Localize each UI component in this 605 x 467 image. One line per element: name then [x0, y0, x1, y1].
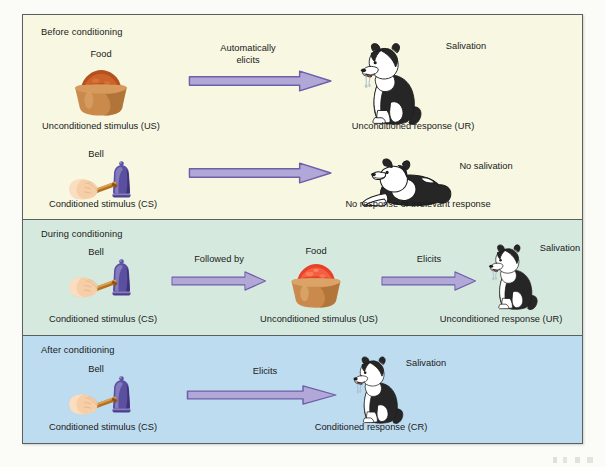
- arrow-label-line-1: Automatically: [193, 43, 303, 55]
- caption-unconditioned-response-during: Unconditioned response (UR): [421, 314, 581, 324]
- hand-ringing-bell-icon: [49, 257, 153, 305]
- panel-before-conditioning: Before conditioning Food Unconditioned s…: [23, 15, 582, 220]
- caption-conditioned-stimulus-after: Conditioned stimulus (CS): [33, 422, 173, 432]
- arrow-food-to-salivation-during: [381, 270, 477, 292]
- label-no-salivation: No salivation: [441, 161, 531, 171]
- caption-conditioned-stimulus-during: Conditioned stimulus (CS): [33, 314, 173, 324]
- page-background: Before conditioning Food Unconditioned s…: [0, 0, 605, 467]
- label-salivation-after: Salivation: [381, 358, 471, 368]
- panel-before-title: Before conditioning: [41, 27, 123, 37]
- arrow-bell-to-salivation-after: [186, 384, 338, 406]
- caption-no-response-or-irrelevant-response: No response or irrelevant response: [303, 199, 533, 209]
- panel-during-conditioning: During conditioning Bell Conditioned sti…: [23, 220, 582, 336]
- arrow-bell-to-food: [171, 270, 267, 292]
- arrow-label-automatically-elicits: Automatically elicits: [193, 43, 303, 66]
- arrow-label-elicits-after: Elicits: [198, 366, 332, 378]
- food-bowl-icon: [63, 61, 139, 120]
- caption-unconditioned-stimulus: Unconditioned stimulus (US): [31, 121, 171, 131]
- label-bell-after: Bell: [71, 364, 121, 374]
- label-bell: Bell: [71, 149, 121, 159]
- dog-sitting-salivating-icon: [356, 40, 428, 130]
- arrow-label-followed-by: Followed by: [171, 254, 267, 266]
- arrow-food-to-salivation: [188, 69, 333, 93]
- label-bell-during: Bell: [71, 247, 121, 257]
- arrow-label-elicits-during: Elicits: [381, 254, 477, 266]
- label-food: Food: [61, 49, 141, 59]
- caption-conditioned-response: Conditioned response (CR): [291, 422, 451, 432]
- arrow-bell-to-no-response: [188, 161, 333, 185]
- label-food-during: Food: [281, 246, 351, 256]
- caption-unconditioned-response: Unconditioned response (UR): [323, 121, 503, 131]
- label-salivation-during: Salivation: [515, 243, 605, 253]
- classical-conditioning-figure: Before conditioning Food Unconditioned s…: [22, 14, 583, 444]
- panel-after-conditioning: After conditioning Bell Conditioned stim…: [23, 336, 582, 443]
- panel-during-title: During conditioning: [41, 229, 123, 239]
- caption-conditioned-stimulus: Conditioned stimulus (CS): [33, 199, 173, 209]
- label-salivation: Salivation: [421, 41, 511, 51]
- arrow-label-line-2: elicits: [193, 55, 303, 67]
- food-bowl-icon: [280, 256, 352, 312]
- panel-after-title: After conditioning: [41, 345, 115, 355]
- scan-artifact: [553, 457, 599, 463]
- hand-ringing-bell-icon: [49, 374, 153, 422]
- caption-unconditioned-stimulus-during: Unconditioned stimulus (US): [245, 314, 393, 324]
